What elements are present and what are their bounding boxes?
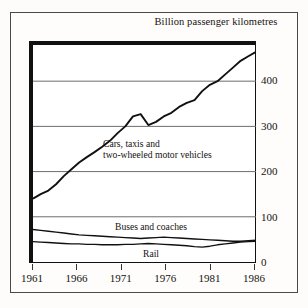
series-label-buses: Buses and coaches [115, 221, 187, 232]
series-line-0 [33, 52, 256, 199]
y-tick-label-0: 0 [261, 257, 267, 268]
y-tick-label-200: 200 [261, 166, 278, 177]
x-tick-label-1986: 1986 [243, 272, 265, 284]
x-tick-1966 [76, 264, 77, 270]
series-label-cars-line2: two-wheeled motor vehicles [103, 149, 212, 160]
x-tick-label-1981: 1981 [199, 272, 221, 284]
series-label-rail: Rail [143, 248, 159, 259]
x-tick-label-1976: 1976 [154, 272, 176, 284]
y-tick-label-100: 100 [261, 211, 278, 222]
series-label-cars-line1: Cars, taxis and [103, 138, 212, 149]
x-tick-label-1971: 1971 [110, 272, 132, 284]
x-tick-1971 [121, 264, 122, 270]
series-line-2 [33, 241, 256, 247]
y-tick-label-400: 400 [261, 75, 278, 86]
chart-caption: Billion passenger kilometres [140, 16, 292, 27]
series-label-cars: Cars, taxis and two-wheeled motor vehicl… [103, 138, 212, 161]
x-tick-1981 [210, 264, 211, 270]
x-tick-label-1966: 1966 [65, 272, 87, 284]
figure-container: Billion passenger kilometres 01002003004… [0, 0, 308, 308]
x-tick-1961 [32, 264, 33, 270]
x-tick-1976 [165, 264, 166, 270]
y-tick-label-300: 300 [261, 120, 278, 131]
x-tick-1986 [254, 264, 255, 270]
x-tick-label-1961: 1961 [21, 272, 43, 284]
